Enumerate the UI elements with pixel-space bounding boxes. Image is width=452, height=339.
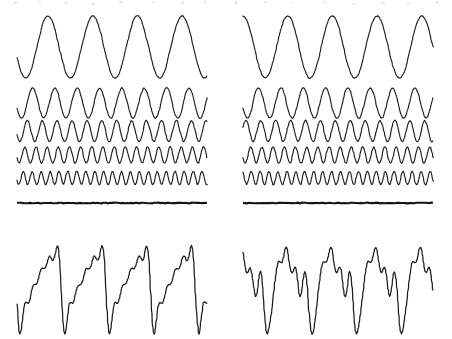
scan-speck <box>181 1 184 5</box>
scan-speck <box>118 1 123 3</box>
scan-speck <box>351 3 356 5</box>
scan-speck <box>234 0 237 4</box>
scan-speck <box>203 1 206 4</box>
figure-background <box>0 0 452 339</box>
scan-speck <box>435 2 439 4</box>
scan-speck <box>91 3 96 5</box>
scan-speck <box>291 1 295 3</box>
scan-speck <box>407 2 410 5</box>
panel-divider-line <box>17 203 207 204</box>
panel-divider-line <box>243 203 433 204</box>
scan-speck <box>13 1 18 3</box>
scan-speck <box>323 0 328 4</box>
scan-speck <box>152 1 155 3</box>
scan-speck <box>382 1 386 5</box>
scan-speck <box>64 1 68 5</box>
figure-root <box>0 0 452 339</box>
scan-speck <box>264 1 267 3</box>
harmonic-synthesis-svg <box>0 0 452 339</box>
scan-speck <box>38 1 41 5</box>
